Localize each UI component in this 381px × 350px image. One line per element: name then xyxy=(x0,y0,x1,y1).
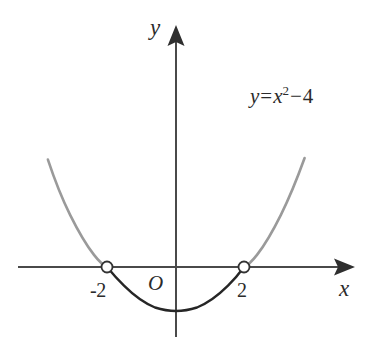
equation-lhs: y xyxy=(250,84,259,108)
equation-label: y=x2−4 xyxy=(250,86,313,107)
x-axis-label: x xyxy=(339,277,349,300)
plot-canvas xyxy=(0,0,381,350)
equation-minus: − xyxy=(289,84,303,108)
origin-label: O xyxy=(148,273,163,294)
root-marker-left xyxy=(102,262,113,273)
equation-constant: 4 xyxy=(303,84,314,108)
curve-right-branch xyxy=(244,158,305,267)
root-marker-right xyxy=(239,262,250,273)
equation-variable: x xyxy=(273,84,282,108)
y-axis-label: y xyxy=(150,16,160,39)
tick-label-pos2: 2 xyxy=(237,280,247,300)
curve-left-branch xyxy=(48,160,107,267)
parabola-figure: y x O -2 2 y=x2−4 xyxy=(0,0,381,350)
tick-label-neg2: -2 xyxy=(90,280,106,300)
equation-equals: = xyxy=(259,84,273,108)
